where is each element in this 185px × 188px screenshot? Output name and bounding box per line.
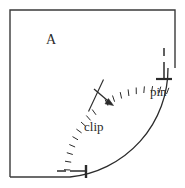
hatch-tick (144, 86, 145, 93)
hatch-tick (73, 137, 79, 140)
figure-canvas: A clip pin (0, 0, 185, 188)
hatch-tick (92, 110, 96, 115)
hatch-tick (120, 92, 121, 98)
clip-label: clip (84, 120, 104, 133)
pin-label: pin (150, 85, 167, 98)
pin-support-symbol (156, 48, 172, 79)
hatch-tick (67, 153, 73, 155)
hatch-tick (128, 89, 129, 96)
hatch-tick (113, 96, 115, 102)
hatch-tick (76, 129, 81, 133)
normal-direction-arrow (89, 80, 114, 112)
region-label-a: A (46, 33, 56, 47)
hatch-tick (65, 161, 71, 162)
hatch-tick (69, 145, 75, 148)
roller-support-symbol (57, 165, 86, 178)
